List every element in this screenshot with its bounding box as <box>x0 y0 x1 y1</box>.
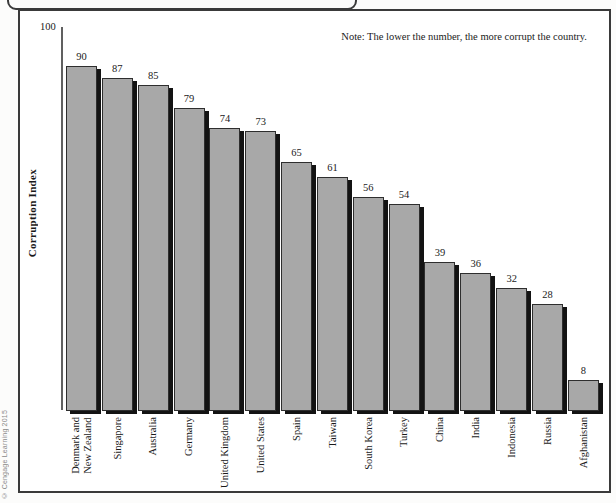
bar-value-label: 56 <box>363 182 374 193</box>
bar-value-label: 28 <box>542 289 553 300</box>
chart-frame: 100 Corruption Index Note: The lower the… <box>18 9 611 493</box>
bar-value-label: 32 <box>506 273 517 284</box>
bar-value-label: 65 <box>291 147 302 158</box>
x-tick-label: Indonesia <box>496 417 527 497</box>
y-axis-title: Corruption Index <box>26 169 38 257</box>
bar-column: 90 <box>66 51 97 411</box>
bar-value-label: 73 <box>255 116 266 127</box>
bar-value-label: 90 <box>76 51 87 62</box>
bar <box>102 78 133 411</box>
bar <box>496 288 527 411</box>
bar-column: 28 <box>532 289 563 411</box>
bar-column: 85 <box>138 70 169 411</box>
bar-column: 87 <box>102 63 133 411</box>
x-tick-label: Spain <box>281 417 312 497</box>
bar <box>532 304 563 411</box>
x-tick-label: United Kingdom <box>209 417 240 497</box>
bar-value-label: 79 <box>184 93 195 104</box>
bar <box>353 197 384 411</box>
bar-value-label: 74 <box>220 113 231 124</box>
bar <box>460 273 491 411</box>
x-tick-label: India <box>460 417 491 497</box>
bar <box>389 204 420 411</box>
x-tick-label: South Korea <box>353 417 384 497</box>
bar <box>245 131 276 411</box>
bar <box>138 85 169 411</box>
y-axis-tick-100: 100 <box>40 21 56 32</box>
bar <box>568 380 599 411</box>
figure-page: 100 Corruption Index Note: The lower the… <box>0 0 616 503</box>
bar-value-label: 61 <box>327 162 338 173</box>
x-tick-label: Singapore <box>102 417 133 497</box>
bar <box>174 108 205 411</box>
bar-column: 8 <box>568 365 599 411</box>
bar-value-label: 36 <box>471 258 482 269</box>
x-tick-label: Australia <box>138 417 169 497</box>
bar-column: 65 <box>281 147 312 411</box>
x-tick-label: Russia <box>532 417 563 497</box>
bar <box>66 66 97 411</box>
x-tick-label: Turkey <box>389 417 420 497</box>
bar-column: 36 <box>460 258 491 411</box>
bar <box>317 177 348 411</box>
bar <box>424 262 455 411</box>
x-tick-label: Germany <box>174 417 205 497</box>
x-tick-label: Afghanistan <box>568 417 599 497</box>
bar-column: 56 <box>353 182 384 411</box>
bar-column: 61 <box>317 162 348 411</box>
bar-value-label: 8 <box>581 365 586 376</box>
bar-column: 32 <box>496 273 527 411</box>
bar-column: 54 <box>389 189 420 411</box>
x-tick-label: United States <box>245 417 276 497</box>
bar-value-label: 39 <box>435 247 446 258</box>
bar-column: 74 <box>209 113 240 411</box>
bar-column: 73 <box>245 116 276 411</box>
plot-area: 90878579747365615654393632288 <box>66 28 599 411</box>
x-tick-label: Denmark and New Zealand <box>66 417 97 497</box>
bar-value-label: 54 <box>399 189 410 200</box>
x-axis-labels: Denmark and New ZealandSingaporeAustrali… <box>66 417 599 497</box>
bar-value-label: 85 <box>148 70 159 81</box>
bar-value-label: 87 <box>112 63 123 74</box>
bar-column: 39 <box>424 247 455 411</box>
x-tick-label: Taiwan <box>317 417 348 497</box>
copyright-text: © Cengage Learning 2015 <box>1 410 8 499</box>
bar-column: 79 <box>174 93 205 411</box>
bar <box>209 128 240 411</box>
y-axis-line <box>61 27 63 410</box>
bar <box>281 162 312 411</box>
x-tick-label: China <box>424 417 455 497</box>
